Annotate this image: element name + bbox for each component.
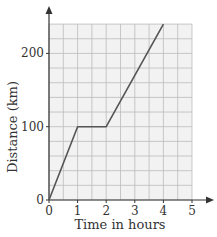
distance-time-chart: 0123450100200 Time in hours Distance (km…: [0, 0, 217, 237]
y-tick-label: 0: [36, 193, 44, 207]
x-tick-label: 3: [131, 204, 139, 218]
x-axis-arrow-icon: [206, 197, 214, 204]
y-axis-arrow-icon: [46, 6, 53, 14]
y-tick-label: 200: [21, 46, 44, 60]
x-tick-label: 5: [188, 204, 196, 218]
x-axis-label: Time in hours: [74, 217, 165, 232]
x-tick-label: 4: [160, 204, 168, 218]
y-tick-label: 100: [21, 120, 44, 134]
y-axis-label: Distance (km): [5, 81, 20, 173]
x-tick-label: 0: [45, 204, 53, 218]
x-tick-label: 1: [74, 204, 82, 218]
x-tick-label: 2: [102, 204, 110, 218]
